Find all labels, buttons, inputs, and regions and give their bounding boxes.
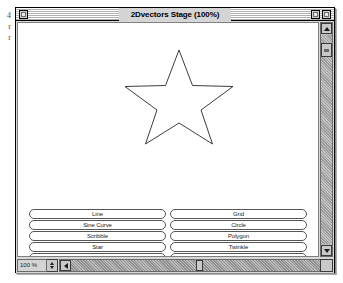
line-button[interactable]: Line (29, 209, 166, 219)
star-button[interactable]: Star (29, 242, 166, 252)
sine-curve-button[interactable]: Sine Curve (29, 220, 166, 230)
shape-button-column-left: Line Sine Curve Scribble Star Blood Drip… (29, 209, 166, 257)
arrow-up-glyph (324, 27, 330, 31)
window-title: 2Dvectors Stage (100%) (16, 9, 334, 20)
circle-button[interactable]: Circle (170, 220, 307, 230)
edge-text-fragment: 4 (0, 11, 11, 20)
vertical-scrollbar[interactable] (320, 22, 333, 257)
zoom-box-icon[interactable] (311, 10, 320, 19)
window-content: Line Sine Curve Scribble Star Blood Drip… (16, 21, 334, 273)
arrow-left-glyph (64, 263, 68, 269)
scroll-down-arrow-icon[interactable] (321, 245, 332, 256)
scroll-left-arrow-icon[interactable] (60, 260, 71, 271)
stage-canvas[interactable]: Line Sine Curve Scribble Star Blood Drip… (17, 22, 319, 257)
waves-button[interactable]: Waves (170, 253, 307, 257)
horizontal-scrollbar[interactable] (59, 259, 333, 272)
bottom-bar: 100 % (17, 259, 333, 272)
polygon-button[interactable]: Polygon (170, 231, 307, 241)
scroll-up-arrow-icon[interactable] (321, 23, 332, 34)
zoom-stepper-icon[interactable] (47, 259, 58, 272)
horizontal-scroll-thumb[interactable] (196, 260, 203, 271)
arrow-down-glyph (324, 249, 330, 253)
star-vector-shape[interactable] (123, 48, 235, 146)
shape-button-panel: Line Sine Curve Scribble Star Blood Drip… (29, 209, 307, 257)
title-bar[interactable]: 2Dvectors Stage (100%) (16, 8, 334, 21)
scribble-button[interactable]: Scribble (29, 231, 166, 241)
grid-button[interactable]: Grid (170, 209, 307, 219)
collapse-box-icon[interactable] (322, 10, 331, 19)
twinkle-button[interactable]: Twinkle (170, 242, 307, 252)
window-grow-box[interactable] (320, 259, 333, 272)
edge-text-fragment: r (0, 33, 11, 42)
edge-text-fragment: r (0, 22, 11, 31)
desktop-background: 4 r r 2Dvectors Stage (100%) Line (0, 0, 343, 283)
zoom-level-field[interactable]: 100 % (17, 259, 47, 272)
vertical-scroll-track[interactable] (321, 35, 332, 244)
application-window: 2Dvectors Stage (100%) Line Sine Curve S… (15, 7, 335, 273)
vertical-scroll-thumb[interactable] (321, 43, 332, 57)
blood-dripping-button[interactable]: Blood Dripping (29, 253, 166, 257)
shape-button-column-right: Grid Circle Polygon Twinkle Waves (170, 209, 307, 257)
